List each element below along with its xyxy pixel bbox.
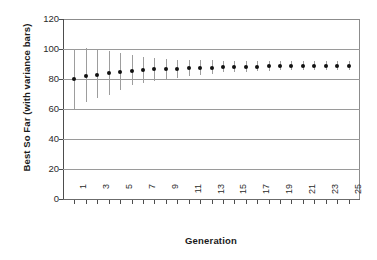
- x-tick-mark: [143, 200, 144, 204]
- data-point: [347, 64, 351, 68]
- x-tick-label: 5: [124, 184, 134, 206]
- gridline: [63, 49, 360, 50]
- y-tick-mark: [59, 109, 63, 110]
- data-point: [141, 68, 145, 72]
- x-tick-label: 15: [238, 184, 248, 206]
- x-tick-mark: [234, 200, 235, 204]
- data-point: [175, 67, 179, 71]
- x-tick-mark: [120, 200, 121, 204]
- data-point: [301, 64, 305, 68]
- x-tick-mark: [326, 200, 327, 204]
- x-tick-mark: [74, 200, 75, 204]
- x-tick-mark: [212, 200, 213, 204]
- data-point: [324, 64, 328, 68]
- x-tick-label: 19: [284, 184, 294, 206]
- data-point: [164, 67, 168, 71]
- y-tick-label: 120: [31, 14, 59, 24]
- data-point: [84, 74, 88, 78]
- y-tick-mark: [59, 49, 63, 50]
- x-tick-label: 13: [216, 184, 226, 206]
- x-tick-label: 3: [101, 184, 111, 206]
- y-tick-mark: [59, 19, 63, 20]
- x-tick-label: 21: [307, 184, 317, 206]
- x-tick-mark: [166, 200, 167, 204]
- gridline: [63, 109, 360, 110]
- chart-figure: Best So Far (with variance bars) 0204060…: [0, 0, 377, 260]
- y-tick-mark: [59, 79, 63, 80]
- y-tick-mark: [59, 139, 63, 140]
- data-point: [221, 65, 225, 69]
- x-tick-mark: [97, 200, 98, 204]
- data-point: [130, 69, 134, 73]
- data-point: [210, 66, 214, 70]
- y-tick-mark: [59, 169, 63, 170]
- y-tick-label: 0: [31, 194, 59, 204]
- x-tick-label: 25: [353, 184, 363, 206]
- x-tick-label: 1: [78, 184, 88, 206]
- y-tick-label: 40: [31, 134, 59, 144]
- x-tick-label: 23: [330, 184, 340, 206]
- data-point: [95, 73, 99, 77]
- x-tick-label: 9: [170, 184, 180, 206]
- y-tick-label: 60: [31, 104, 59, 114]
- x-tick-mark: [257, 200, 258, 204]
- x-axis-title: Generation: [62, 235, 360, 246]
- y-tick-label: 20: [31, 164, 59, 174]
- data-point: [107, 71, 111, 75]
- data-point: [255, 65, 259, 69]
- x-tick-mark: [349, 200, 350, 204]
- gridline: [63, 169, 360, 170]
- y-tick-label: 80: [31, 74, 59, 84]
- y-tick-label: 100: [31, 44, 59, 54]
- y-axis-title: Best So Far (with variance bars): [21, 3, 32, 193]
- data-point: [187, 66, 191, 70]
- data-point: [244, 65, 248, 69]
- y-tick-mark: [59, 199, 63, 200]
- data-point: [312, 64, 316, 68]
- x-tick-mark: [280, 200, 281, 204]
- data-point: [335, 64, 339, 68]
- x-tick-label: 17: [261, 184, 271, 206]
- data-point: [118, 70, 122, 74]
- gridline: [63, 79, 360, 80]
- x-tick-mark: [189, 200, 190, 204]
- data-point: [198, 66, 202, 70]
- x-tick-mark: [303, 200, 304, 204]
- x-tick-label: 11: [193, 184, 203, 206]
- gridline: [63, 139, 360, 140]
- x-tick-label: 7: [147, 184, 157, 206]
